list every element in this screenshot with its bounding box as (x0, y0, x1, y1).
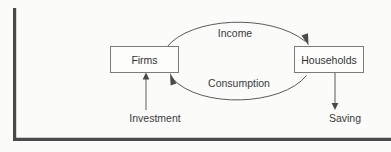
flow-income-label: Income (218, 27, 253, 39)
flow-consumption-label: Consumption (208, 77, 270, 89)
external-investment-label: Investment (129, 112, 180, 124)
investment-arrowhead (143, 73, 150, 80)
node-firms-label: Firms (131, 54, 157, 66)
consumption-arrowhead (170, 73, 177, 85)
external-saving-label: Saving (329, 112, 361, 124)
diagram-page: Firms Households Income Consumption Inve… (0, 0, 391, 152)
node-households-label: Households (301, 54, 356, 66)
circular-flow-diagram: Firms Households Income Consumption Inve… (0, 0, 391, 152)
saving-arrowhead (332, 103, 339, 110)
